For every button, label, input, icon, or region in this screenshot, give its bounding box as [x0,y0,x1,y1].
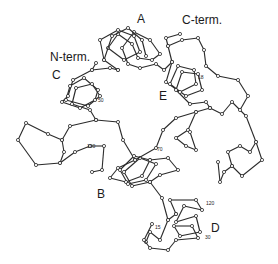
residue-node [174,116,177,119]
residue-node [194,214,197,217]
residue-node [138,66,141,69]
label-c-terminus: C-term. [182,14,222,26]
residue-node [140,38,143,41]
residue-node [176,64,179,67]
residue-node [100,168,103,171]
residue-node [68,84,71,87]
residue-node [150,222,153,225]
residue-node [148,158,151,161]
residue-node [94,118,97,121]
residue-node [166,218,169,221]
residue-node [78,106,81,109]
residue-node [24,121,27,124]
residue-node [180,38,183,41]
residue-node [222,170,225,173]
residue-node [248,150,251,153]
residue-label: 120 [206,201,214,206]
residue-label: 18 [198,75,204,80]
residue-node [254,140,257,143]
residue-node [120,46,123,49]
residue-node [122,170,125,173]
residue-node [216,160,219,163]
residue-node [118,168,121,171]
residue-node [192,68,195,71]
residue-label: 70 [157,147,163,152]
residue-node [88,108,91,111]
residue-node [96,88,99,91]
residue-node [194,148,197,151]
residue-node [194,110,197,113]
residue-node [226,150,229,153]
residue-node [158,238,161,241]
residue-node [70,102,73,105]
residue-node [166,248,169,251]
residue-node [164,80,167,83]
residue-node [174,238,177,241]
residue-node [130,184,133,187]
protein-backbone-diagram: A C-term. N-term. C E B D 50 100 70 18 1… [0,0,278,264]
residue-node [74,86,77,89]
residue-node [170,60,173,63]
residue-node [46,132,49,135]
residue-node [148,38,151,41]
residue-node [174,88,177,91]
residue-node [94,61,97,64]
residue-node [174,136,177,139]
residue-node [64,98,67,101]
residue-node [148,246,151,249]
residue-node [82,76,85,79]
residue-node [208,106,211,109]
label-helix-b: B [97,188,105,200]
residue-node [154,162,157,165]
label-helix-e: E [159,90,167,102]
residue-node [140,174,143,177]
residue-node [168,82,171,85]
residue-node [90,82,93,85]
residue-node [90,170,93,173]
residue-node [158,52,161,55]
residue-node [166,156,169,159]
residue-node [162,68,165,71]
residue-node [16,138,19,141]
residue-node [202,48,205,51]
residue-node [174,220,177,223]
residue-node [188,102,191,105]
residue-node [218,180,221,183]
residue-node [216,74,219,77]
residue-node [158,173,161,176]
residue-label: 50 [98,98,104,103]
residue-node [148,180,151,183]
residue-label: 15 [155,225,161,230]
residue-node [194,198,197,201]
residue-node [122,58,125,61]
residue-node [178,234,181,237]
residue-node [240,174,243,177]
residue-node [194,82,197,85]
residue-node [161,128,164,131]
residue-node [98,38,101,41]
residue-node [168,198,171,201]
residue-node [166,44,169,47]
residue-node [190,224,193,227]
residue-node [144,54,147,57]
residue-node [184,94,187,97]
residue-node [236,78,239,81]
label-n-terminus: N-term. [50,51,90,63]
residue-node [126,62,129,65]
residue-node [178,32,181,35]
residue-node [71,78,74,81]
residue-node [102,58,105,61]
residue-node [164,36,167,39]
residue-node [130,42,133,45]
residue-node [174,212,177,215]
residue-node [154,62,157,65]
residue-node [220,112,223,115]
residue-node [126,182,129,185]
residue-node [150,58,153,61]
residue-label: 100 [87,144,95,149]
residue-node [176,168,179,171]
residue-node [142,238,145,241]
label-helix-a: A [137,13,145,25]
label-helix-c: C [52,69,61,81]
residue-node [126,26,129,29]
